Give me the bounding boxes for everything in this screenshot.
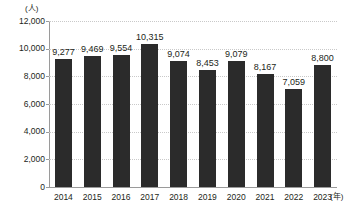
x-axis-tick-label: 2021: [250, 192, 280, 202]
bar: [84, 56, 101, 187]
y-axis-tick-mark: [46, 159, 49, 160]
y-axis-tick-label: 12,000: [1, 17, 45, 26]
x-axis-tick-label: 2014: [48, 192, 78, 202]
x-axis-tick-label: 2018: [164, 192, 194, 202]
bar-value-label: 9,554: [101, 43, 141, 53]
bar-value-label: 8,167: [245, 62, 285, 72]
x-axis-tick-label: 2016: [106, 192, 136, 202]
y-axis-tick-mark: [46, 132, 49, 133]
bar-chart: (人) 02,0004,0006,0008,00010,00012,000 (年…: [0, 0, 351, 220]
bar: [314, 65, 331, 187]
y-axis-tick-label: 0: [1, 183, 45, 192]
x-axis-tick-label: 2017: [135, 192, 165, 202]
bar: [170, 61, 187, 187]
x-axis-tick-label: 2015: [77, 192, 107, 202]
bar: [199, 70, 216, 187]
y-axis-tick-mark: [46, 187, 49, 188]
x-axis-tick-label: 2022: [279, 192, 309, 202]
y-axis-tick-mark: [46, 21, 49, 22]
x-axis-tick-label: 2019: [192, 192, 222, 202]
bar-value-label: 8,453: [187, 58, 227, 68]
bar-value-label: 8,800: [303, 53, 343, 63]
x-axis-tick-label: 2020: [221, 192, 251, 202]
bar-value-label: 9,079: [216, 49, 256, 59]
y-axis-tick-label: 10,000: [1, 44, 45, 53]
bar: [257, 74, 274, 187]
y-axis-tick-mark: [46, 104, 49, 105]
y-axis-tick-label: 4,000: [1, 127, 45, 136]
gridline: [49, 21, 337, 22]
y-axis-tick-labels: 02,0004,0006,0008,00010,00012,000: [0, 0, 45, 220]
bar: [141, 44, 158, 187]
bar-value-label: 7,059: [274, 77, 314, 87]
x-axis-line: [49, 187, 337, 188]
bar: [55, 59, 72, 187]
y-axis-tick-mark: [46, 76, 49, 77]
y-axis-tick-label: 2,000: [1, 155, 45, 164]
y-axis-tick-label: 8,000: [1, 72, 45, 81]
y-axis-tick-label: 6,000: [1, 100, 45, 109]
bar: [113, 55, 130, 187]
bar-value-label: 10,315: [130, 32, 170, 42]
bar: [228, 61, 245, 187]
x-axis-tick-label: 2023: [308, 192, 338, 202]
bar: [285, 89, 302, 187]
